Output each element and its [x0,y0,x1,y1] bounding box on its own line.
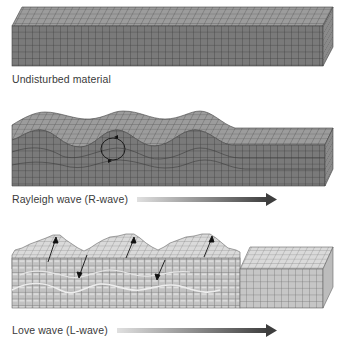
rayleigh-direction-arrow [137,193,277,206]
love-disturbed-front [12,258,240,308]
undisturbed-front-face [12,26,323,66]
seismic-surface-waves-diagram [0,0,347,349]
love-label: Love wave (L-wave) [12,324,108,336]
love-direction-arrow [117,324,277,337]
love-block [12,234,333,308]
love-undisturbed-top [240,247,333,269]
undisturbed-label: Undisturbed material [12,73,111,85]
rayleigh-label: Rayleigh wave (R-wave) [12,193,128,205]
undisturbed-block [12,7,333,66]
love-undisturbed-front [240,269,323,308]
rayleigh-block [12,111,333,186]
undisturbed-top-face [12,7,333,26]
